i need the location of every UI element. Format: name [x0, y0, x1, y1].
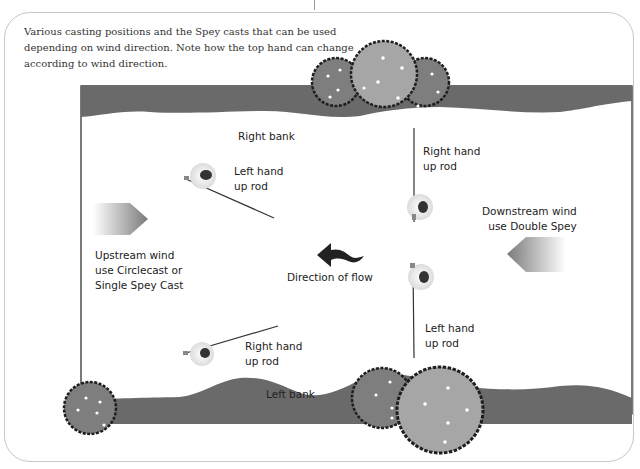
river-diagram [0, 0, 640, 469]
tree-icon-bottom-far-left [64, 382, 116, 434]
tree-icon-bottom-right [397, 367, 483, 453]
upstream-wind-label: Upstream wind use Circlecast or Single S… [95, 248, 183, 293]
caster-label-bottom-right: Left hand up rod [425, 321, 475, 351]
left-bank-label: Left bank [266, 387, 315, 402]
caster-label-top-left: Left hand up rod [234, 164, 284, 194]
caster-label-bottom-left: Right hand up rod [245, 339, 302, 369]
right-bank-label: Right bank [238, 129, 295, 144]
downstream-wind-label: Downstream wind use Double Spey [482, 204, 577, 234]
caster-label-top-right: Right hand up rod [423, 144, 480, 174]
tree-icon-top-center [351, 41, 417, 107]
flow-direction-label: Direction of flow [287, 270, 373, 285]
